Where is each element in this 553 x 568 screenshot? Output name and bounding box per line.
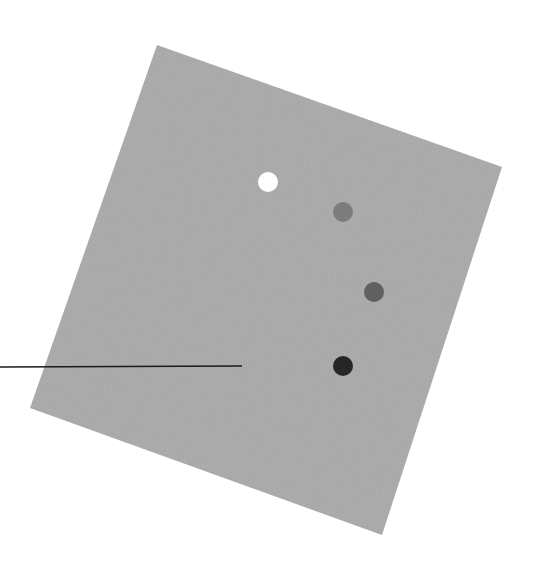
diagram-figure <box>0 0 553 568</box>
dot-3 <box>364 282 384 302</box>
dot-2 <box>333 202 353 222</box>
leader-line <box>0 366 242 367</box>
gray-panel <box>30 45 502 535</box>
dot-1 <box>258 172 278 192</box>
dot-4 <box>333 356 353 376</box>
